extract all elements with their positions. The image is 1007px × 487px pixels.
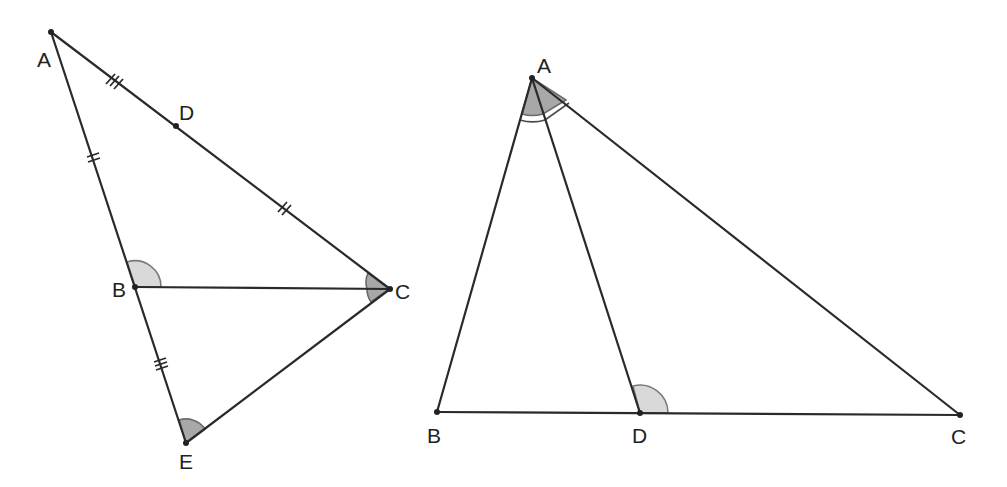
point-B-right [434, 409, 440, 415]
segment-CE [186, 289, 390, 443]
tick-marks-BE [154, 358, 168, 370]
point-A-right [529, 75, 535, 81]
point-D-right [637, 410, 643, 416]
point-C-left [387, 286, 393, 292]
label-C-left: C [395, 280, 410, 303]
segment-AC-right [532, 78, 960, 415]
segment-AE [51, 32, 186, 443]
point-A-left [48, 29, 54, 35]
left-figure: A D B C E [37, 29, 410, 473]
tick-marks-AB [87, 153, 100, 162]
point-B-left [132, 284, 138, 290]
right-figure: A B D C [427, 54, 966, 448]
segment-BC-right [437, 412, 960, 415]
label-B-right: B [427, 424, 441, 447]
point-C-right [957, 412, 963, 418]
segment-BC [135, 287, 390, 289]
geometry-canvas: A D B C E A B D C [0, 0, 1007, 487]
segment-AC [51, 32, 390, 289]
label-B-left: B [112, 278, 126, 301]
segment-AD-right [532, 78, 640, 413]
label-A-left: A [37, 48, 51, 71]
angle-B-left [127, 261, 161, 287]
segment-AB-right [437, 78, 532, 412]
label-C-right: C [951, 425, 966, 448]
label-E-left: E [179, 450, 193, 473]
label-D-right: D [632, 424, 647, 447]
label-A-right: A [537, 54, 551, 77]
point-E-left [183, 440, 189, 446]
label-D-left: D [179, 101, 194, 124]
